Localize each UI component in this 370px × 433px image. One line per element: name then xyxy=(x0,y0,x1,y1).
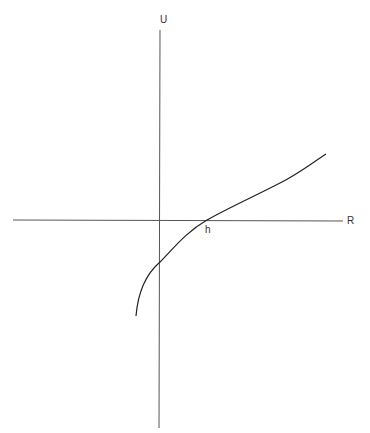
curve xyxy=(136,154,326,316)
diagram-canvas xyxy=(0,0,370,433)
r-axis xyxy=(13,220,343,221)
h-intercept-label: h xyxy=(205,225,211,235)
u-axis xyxy=(159,30,160,428)
r-axis-label: R xyxy=(347,216,354,226)
u-axis-label: U xyxy=(160,15,167,25)
